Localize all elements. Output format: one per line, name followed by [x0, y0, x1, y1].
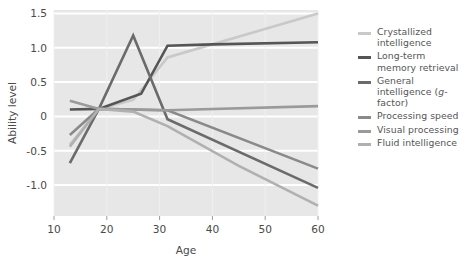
x-tick-label-5: 60	[311, 223, 325, 235]
y-tick-label-3: 0	[40, 110, 47, 122]
legend-label-1: Long-term memory retrieval	[377, 50, 465, 72]
legend-label-3: Processing speed	[377, 110, 459, 121]
legend-label-2: General intelligence (g-factor)	[377, 75, 465, 109]
legend-item-4[interactable]: Visual processing	[358, 124, 467, 135]
legend-item-2[interactable]: General intelligence (g-factor)	[358, 75, 467, 109]
x-tick-label-0: 10	[47, 223, 61, 235]
x-tick-label-3: 40	[206, 223, 220, 235]
x-tick-label-1: 20	[100, 223, 114, 235]
y-tick-label-0: 1.5	[30, 7, 47, 19]
legend-item-0[interactable]: Crystallized intelligence	[358, 26, 467, 48]
legend-swatch-icon-5	[358, 143, 371, 146]
legend-item-1[interactable]: Long-term memory retrieval	[358, 50, 467, 72]
legend-item-3[interactable]: Processing speed	[358, 110, 467, 121]
y-tick-label-1: 1.0	[30, 42, 47, 54]
legend-swatch-icon-0	[358, 32, 371, 35]
y-tick-label-2: 0.5	[30, 76, 47, 88]
y-tick-label-5: -1.0	[26, 179, 47, 191]
y-tick-label-4: -0.5	[26, 145, 47, 157]
legend-swatch-icon-3	[358, 116, 371, 119]
legend-swatch-icon-4	[358, 130, 371, 133]
legend-label-5: Fluid intelligence	[377, 137, 457, 148]
y-axis-title: Ability level	[6, 82, 18, 144]
x-axis-title: Age	[176, 244, 197, 256]
legend-label-4: Visual processing	[377, 124, 459, 135]
ability-level-by-age-chart: 1.51.00.50-0.5-1.0102030405060AgeAbility…	[0, 0, 467, 264]
chart-legend: Crystallized intelligenceLong-term memor…	[358, 26, 467, 150]
x-tick-label-4: 50	[258, 223, 272, 235]
legend-item-5[interactable]: Fluid intelligence	[358, 137, 467, 148]
legend-swatch-icon-1	[358, 56, 371, 59]
legend-swatch-icon-2	[358, 81, 371, 84]
x-tick-label-2: 30	[153, 223, 167, 235]
legend-label-0: Crystallized intelligence	[377, 26, 465, 48]
